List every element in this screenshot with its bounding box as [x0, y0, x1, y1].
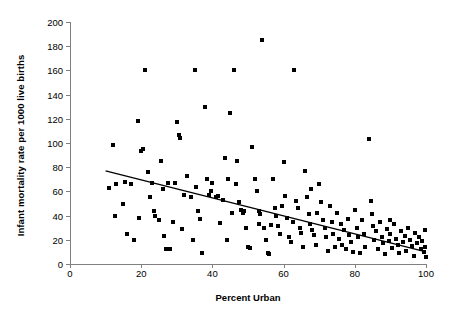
x-tick-label: 80: [350, 268, 361, 279]
scatter-chart-figure: Infant mortality rate per 1000 live birt…: [0, 0, 449, 317]
x-tick-label: 0: [67, 268, 72, 279]
y-tick-label: 0: [58, 259, 63, 270]
y-tick-label: 40: [52, 210, 63, 221]
y-tick-label: 200: [47, 17, 63, 28]
x-tick-label: 100: [418, 268, 434, 279]
x-tick-label: 20: [136, 268, 147, 279]
y-tick-label: 60: [52, 186, 63, 197]
y-tick-label: 20: [52, 234, 63, 245]
y-axis-tick-labels: 020406080100120140160180200: [0, 22, 63, 264]
y-tick-label: 180: [47, 41, 63, 52]
y-tick-label: 140: [47, 89, 63, 100]
x-axis-line: [70, 264, 427, 265]
x-axis-title: Percent Urban: [70, 292, 426, 303]
trendline: [70, 22, 426, 264]
y-tick-label: 80: [52, 162, 63, 173]
y-tick-label: 100: [47, 138, 63, 149]
x-tick-label: 60: [278, 268, 289, 279]
plot-area: [70, 22, 426, 264]
x-tick-label: 40: [207, 268, 218, 279]
y-tick-label: 120: [47, 113, 63, 124]
y-tick-label: 160: [47, 65, 63, 76]
x-axis-tick-labels: 020406080100: [70, 268, 426, 284]
